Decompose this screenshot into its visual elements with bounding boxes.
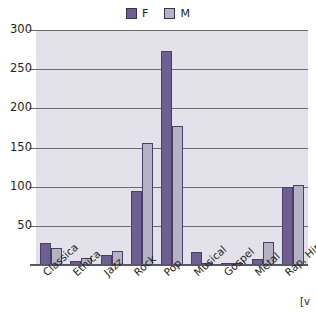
y-axis-label-200: 200	[0, 102, 32, 114]
chart-legend: F M	[0, 2, 316, 24]
x-axis-labels: ClassicaEtnicaJazzRockPopMusicalGospelMe…	[0, 266, 316, 328]
legend-label-m: M	[180, 8, 190, 19]
bar-chart: F M 50100150200250300 ClassicaEtnicaJazz…	[0, 0, 316, 328]
bar-group	[96, 30, 126, 265]
y-axis-label-250: 250	[0, 63, 32, 75]
legend-label-f: F	[142, 8, 148, 19]
legend-entry-m: M	[164, 8, 190, 19]
bar-group	[187, 30, 217, 265]
y-axis-label-300: 300	[0, 24, 32, 36]
bar-group	[66, 30, 96, 265]
bar-m	[142, 143, 153, 265]
footnote-annotation: [v	[300, 296, 316, 307]
legend-entry-f: F	[126, 8, 148, 19]
bar-f	[131, 191, 142, 265]
bar-group	[248, 30, 278, 265]
y-axis-label-50: 50	[0, 220, 32, 232]
bar-group	[127, 30, 157, 265]
bar-f	[282, 187, 293, 265]
legend-swatch-m-icon	[164, 8, 175, 19]
bar-m	[172, 126, 183, 265]
bar-f	[161, 51, 172, 265]
bars-layer	[36, 30, 308, 265]
legend-swatch-f-icon	[126, 8, 137, 19]
bar-group	[217, 30, 247, 265]
y-axis-label-100: 100	[0, 181, 32, 193]
y-axis-label-150: 150	[0, 142, 32, 154]
bar-group	[157, 30, 187, 265]
bar-group	[36, 30, 66, 265]
bar-group	[278, 30, 308, 265]
